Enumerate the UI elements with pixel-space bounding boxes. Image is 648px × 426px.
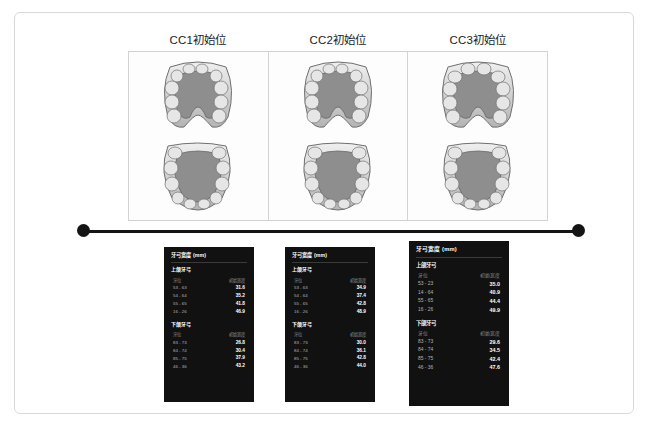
table-row: 53 - 63 31.6 <box>171 285 247 293</box>
table-row: 85 - 75 37.9 <box>171 355 247 363</box>
measurement-table: 牙位 初始宽度 53 - 63 34.9 54 - 64 37.4 55 - 6… <box>292 277 368 316</box>
cell-position: 16 - 26 <box>416 306 454 315</box>
cell-value: 44.0 <box>328 363 368 371</box>
timeline-line <box>83 230 579 233</box>
cell-position: 55 - 65 <box>171 301 207 309</box>
table-row: 46 - 36 44.0 <box>292 363 368 371</box>
cell-position: 53 - 23 <box>416 280 454 289</box>
table-row: 55 - 65 44.4 <box>416 297 502 306</box>
cell-value: 35.0 <box>454 280 502 289</box>
dental-model-panel-cc3 <box>407 51 548 221</box>
measurement-card-cc1: 牙弓宽度 (mm) 上颌牙弓 牙位 初始宽度 53 - 63 31.6 54 -… <box>164 247 254 402</box>
measurement-cards: 牙弓宽度 (mm) 上颌牙弓 牙位 初始宽度 53 - 63 31.6 54 -… <box>128 241 548 406</box>
arch-label: 上颌牙弓 <box>416 263 502 268</box>
dental-model-panel-cc1 <box>128 51 268 221</box>
cell-value: 30.0 <box>328 339 368 347</box>
lower-arch-group: 下颌牙弓 牙位 初始宽度 83 - 73 30.0 84 - 74 36.1 <box>292 323 368 371</box>
header-position: 牙位 <box>171 277 207 284</box>
table-row: 83 - 73 26.8 <box>171 339 247 347</box>
cell-value: 36.1 <box>328 347 368 355</box>
header-value: 初始宽度 <box>207 277 247 284</box>
cell-value: 47.6 <box>454 364 502 373</box>
column-title-cc3: CC3初始位 <box>408 31 548 47</box>
header-value: 初始宽度 <box>328 331 368 338</box>
cell-position: 55 - 65 <box>292 301 328 309</box>
timeline <box>77 224 585 238</box>
upper-arch-group: 上颌牙弓 牙位 初始宽度 53 - 63 31.6 54 - 64 35.2 <box>171 268 247 316</box>
cell-value: 42.8 <box>328 301 368 309</box>
header-position: 牙位 <box>416 330 454 338</box>
upper-arch-model-icon <box>432 59 524 134</box>
cell-value: 37.4 <box>328 293 368 301</box>
cell-value: 44.4 <box>454 297 502 306</box>
table-row: 84 - 74 30.4 <box>171 347 247 355</box>
upper-arch-group: 上颌牙弓 牙位 初始宽度 53 - 63 34.9 54 - 64 37.4 <box>292 268 368 316</box>
table-row: 83 - 73 30.0 <box>292 339 368 347</box>
cell-position: 55 - 65 <box>416 297 454 306</box>
table-header-row: 牙位 初始宽度 <box>416 330 502 338</box>
table-row: 84 - 74 36.1 <box>292 347 368 355</box>
cell-position: 14 - 64 <box>416 289 454 298</box>
cell-value: 46.9 <box>207 309 247 317</box>
column-titles: CC1初始位 CC2初始位 CC3初始位 <box>128 31 548 47</box>
lower-arch-model-icon <box>292 138 384 213</box>
cell-value: 49.9 <box>454 306 502 315</box>
cell-position: 53 - 63 <box>171 285 207 293</box>
cell-value: 30.4 <box>207 347 247 355</box>
cell-position: 85 - 75 <box>292 355 328 363</box>
cell-position: 84 - 74 <box>171 347 207 355</box>
lower-arch-model-icon <box>432 138 524 213</box>
table-header-row: 牙位 初始宽度 <box>171 277 247 284</box>
lower-arch-group: 下颌牙弓 牙位 初始宽度 83 - 73 26.8 84 - 74 30.4 <box>171 323 247 371</box>
table-row: 14 - 64 40.9 <box>416 289 502 298</box>
header-value: 初始宽度 <box>328 277 368 284</box>
measurement-table: 牙位 初始宽度 83 - 73 26.8 84 - 74 30.4 85 - 7… <box>171 331 247 370</box>
table-row: 54 - 64 35.2 <box>171 293 247 301</box>
table-header-row: 牙位 初始宽度 <box>292 331 368 338</box>
measurement-card-cc3: 牙弓宽度 (mm) 上颌牙弓 牙位 初始宽度 53 - 23 35.0 14 -… <box>409 241 509 406</box>
table-row: 46 - 36 43.2 <box>171 363 247 371</box>
table-header-row: 牙位 初始宽度 <box>416 272 502 280</box>
table-row: 83 - 73 29.6 <box>416 338 502 347</box>
upper-arch-group: 上颌牙弓 牙位 初始宽度 53 - 23 35.0 14 - 64 40.9 <box>416 263 502 315</box>
table-row: 55 - 65 42.8 <box>292 301 368 309</box>
cell-position: 54 - 64 <box>292 293 328 301</box>
card-title: 牙弓宽度 (mm) <box>416 247 502 258</box>
cell-value: 43.2 <box>207 363 247 371</box>
table-row: 16 - 26 46.9 <box>171 309 247 317</box>
column-title-cc2: CC2初始位 <box>268 31 408 47</box>
lower-arch-group: 下颌牙弓 牙位 初始宽度 83 - 73 29.6 84 - 74 34.5 <box>416 321 502 373</box>
cell-value: 41.8 <box>207 301 247 309</box>
table-row: 53 - 23 35.0 <box>416 280 502 289</box>
cell-position: 16 - 26 <box>292 309 328 317</box>
cell-position: 85 - 75 <box>416 355 454 364</box>
table-row: 55 - 65 41.8 <box>171 301 247 309</box>
table-row: 16 - 26 49.9 <box>416 306 502 315</box>
cell-value: 42.4 <box>454 355 502 364</box>
table-header-row: 牙位 初始宽度 <box>171 331 247 338</box>
table-row: 16 - 26 48.9 <box>292 309 368 317</box>
cell-value: 34.9 <box>328 285 368 293</box>
arch-label: 下颌牙弓 <box>171 323 247 328</box>
arch-label: 下颌牙弓 <box>292 323 368 328</box>
cell-position: 84 - 74 <box>292 347 328 355</box>
header-value: 初始宽度 <box>454 272 502 280</box>
cell-position: 85 - 75 <box>171 355 207 363</box>
cell-position: 46 - 36 <box>292 363 328 371</box>
cell-value: 26.8 <box>207 339 247 347</box>
cell-value: 34.5 <box>454 347 502 356</box>
arch-label: 上颌牙弓 <box>292 268 368 273</box>
table-row: 85 - 75 42.8 <box>292 355 368 363</box>
timeline-end-dot <box>572 224 585 237</box>
slide-frame: CC1初始位 CC2初始位 CC3初始位 <box>14 12 634 414</box>
measurement-table: 牙位 初始宽度 83 - 73 30.0 84 - 74 36.1 85 - 7… <box>292 331 368 370</box>
arch-label: 上颌牙弓 <box>171 268 247 273</box>
upper-arch-model-icon <box>152 59 244 134</box>
header-position: 牙位 <box>292 331 328 338</box>
measurement-table: 牙位 初始宽度 53 - 23 35.0 14 - 64 40.9 55 - 6… <box>416 272 502 314</box>
header-position: 牙位 <box>416 272 454 280</box>
cell-position: 16 - 26 <box>171 309 207 317</box>
cell-value: 35.2 <box>207 293 247 301</box>
cell-position: 46 - 36 <box>171 363 207 371</box>
dental-model-panels <box>128 51 548 221</box>
